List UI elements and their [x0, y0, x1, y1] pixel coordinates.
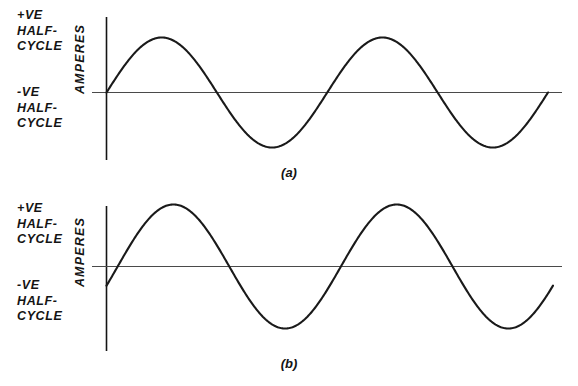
waveform-panel-a: +VE HALF- CYCLE -VE HALF- CYCLE AMPERES … — [0, 0, 578, 193]
panel-caption-a: (a) — [0, 165, 578, 180]
figure-page: +VE HALF- CYCLE -VE HALF- CYCLE AMPERES … — [0, 0, 578, 386]
waveform-panel-b: +VE HALF- CYCLE -VE HALF- CYCLE AMPERES … — [0, 193, 578, 386]
panel-caption-b: (b) — [0, 356, 578, 371]
